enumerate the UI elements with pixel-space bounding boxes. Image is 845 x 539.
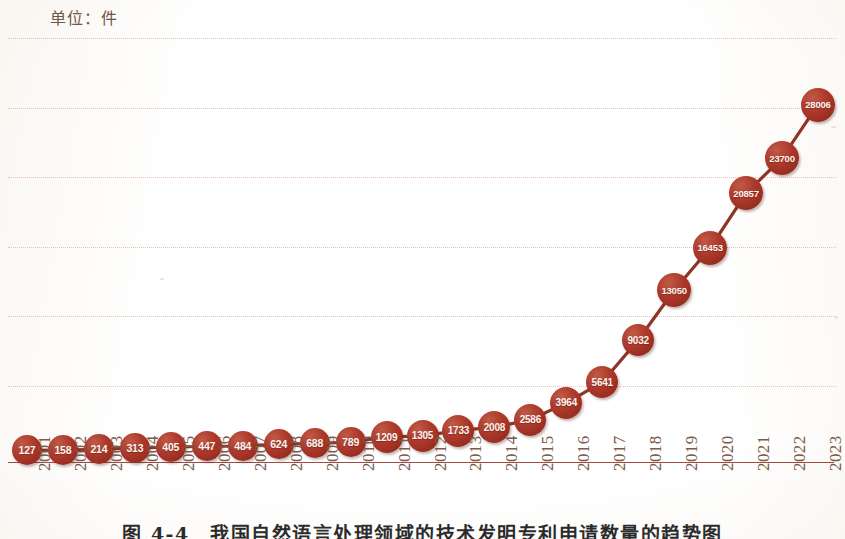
data-point-value-label: 624: [270, 438, 287, 450]
data-point-value-label: 214: [90, 443, 107, 455]
data-point-marker: 5641: [586, 366, 618, 398]
gridline: [8, 386, 836, 387]
chart-page: 单位：件 12715821431340544748462468878912091…: [0, 0, 845, 539]
data-point-value-label: 9032: [627, 335, 648, 346]
series-line: [27, 105, 818, 451]
data-point-value-label: 13050: [661, 285, 686, 296]
x-axis-tick-label: 2014: [502, 435, 522, 471]
gridline: [8, 38, 836, 39]
data-point-marker: 20857: [729, 176, 763, 210]
data-point-value-label: 20857: [733, 188, 758, 199]
x-axis-tick-label: 2008: [287, 435, 307, 471]
data-point-value-label: 405: [162, 441, 179, 453]
data-point-marker: 16453: [693, 231, 727, 265]
figure-caption: 图 4-4 我国自然语言处理领域的技术发明专利申请数量的趋势图: [0, 519, 845, 539]
x-axis-tick-label: 2003: [107, 435, 127, 471]
x-axis-tick-label: 2016: [574, 435, 594, 471]
data-point-value-label: 158: [54, 444, 71, 456]
gridline: [8, 316, 836, 317]
data-point-value-label: 447: [198, 440, 215, 452]
data-point-marker: 9032: [622, 324, 654, 356]
x-axis-tick-label: 2010: [359, 435, 379, 471]
data-point-value-label: 23700: [769, 153, 794, 164]
x-axis-tick-label: 2023: [826, 435, 845, 471]
data-point-value-label: 789: [342, 436, 359, 448]
data-point-value-label: 313: [126, 442, 143, 454]
data-point-marker: 13050: [657, 273, 691, 307]
data-point-value-label: 28006: [805, 99, 830, 110]
data-point-value-label: 2008: [484, 422, 505, 433]
x-axis-tick-label: 2015: [538, 435, 558, 471]
x-axis-tick-label: 2018: [646, 435, 666, 471]
gridline: [8, 108, 836, 109]
x-axis-tick-label: 2004: [143, 435, 163, 471]
x-axis-tick-label: 2020: [718, 435, 738, 471]
scan-speck: [831, 126, 836, 128]
data-point-value-label: 688: [306, 437, 323, 449]
scan-speck: [160, 278, 164, 280]
scan-speck: [835, 316, 838, 319]
x-axis-tick-label: 2006: [215, 435, 235, 471]
data-point-marker: 28006: [801, 88, 835, 122]
data-point-value-label: 484: [234, 440, 251, 452]
data-point-value-label: 2586: [520, 414, 541, 425]
data-point-value-label: 1733: [448, 425, 469, 436]
unit-label: 单位：件: [50, 5, 118, 29]
data-point-marker: 3964: [550, 387, 582, 419]
data-point-value-label: 127: [19, 444, 36, 456]
data-point-value-label: 16453: [697, 242, 722, 253]
x-axis-tick-label: 2011: [395, 436, 415, 471]
gridline: [8, 177, 836, 178]
data-point-marker: 2586: [514, 404, 546, 436]
x-axis-tick-label: 2021: [754, 435, 774, 471]
x-axis-tick-label: 2007: [251, 435, 271, 471]
data-point-value-label: 5641: [592, 377, 613, 388]
data-point-value-label: 3964: [556, 397, 577, 408]
data-point-marker: 23700: [765, 141, 799, 175]
x-axis-tick-label: 2019: [682, 435, 702, 471]
x-axis-tick-label: 2009: [323, 435, 343, 471]
x-axis-tick-label: 2022: [790, 435, 810, 471]
x-axis-tick-label: 2012: [431, 435, 451, 471]
x-axis-tick-label: 2013: [466, 435, 486, 471]
x-axis-tick-label: 2005: [179, 435, 199, 471]
x-axis-tick-label: 2001: [35, 435, 55, 471]
x-axis-tick-label: 2017: [610, 435, 630, 471]
x-axis-tick-label: 2002: [71, 435, 91, 471]
